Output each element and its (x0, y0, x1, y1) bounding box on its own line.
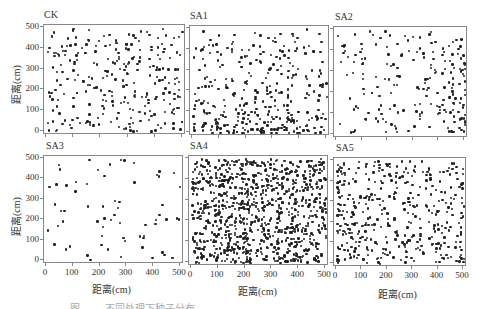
x-tick-mark (386, 266, 387, 269)
data-point (260, 128, 262, 130)
data-point (349, 97, 351, 99)
data-point (381, 213, 383, 215)
data-point (55, 183, 57, 185)
data-point (193, 123, 195, 125)
data-point (79, 122, 81, 124)
data-point (357, 107, 359, 109)
data-point (70, 127, 72, 129)
data-point (129, 126, 131, 128)
data-point (324, 228, 326, 230)
data-point (412, 59, 414, 61)
data-point (257, 229, 259, 231)
data-point (374, 194, 376, 196)
data-point (386, 212, 388, 214)
data-point (352, 72, 354, 74)
data-point (315, 164, 317, 166)
data-point (245, 158, 247, 160)
data-point (408, 201, 410, 203)
data-point (375, 117, 377, 119)
data-point (211, 200, 213, 202)
data-point (386, 46, 388, 48)
data-point (435, 213, 437, 215)
data-point (240, 56, 242, 58)
data-point (365, 203, 367, 205)
data-point (163, 99, 165, 101)
data-point (249, 258, 251, 260)
data-point (226, 124, 228, 126)
data-point (301, 199, 303, 201)
data-point (150, 130, 152, 132)
data-point (373, 229, 375, 231)
data-point (192, 171, 194, 173)
data-point (437, 223, 439, 225)
data-point (211, 132, 213, 134)
data-point (306, 189, 308, 191)
data-point (219, 219, 221, 221)
data-point (72, 29, 74, 31)
data-point (462, 168, 464, 170)
data-point (462, 215, 464, 217)
data-point (428, 221, 430, 223)
data-point (129, 129, 131, 131)
data-point (120, 102, 122, 104)
data-point (367, 254, 369, 256)
data-point (93, 87, 95, 89)
data-point (376, 218, 378, 220)
data-point (441, 72, 443, 74)
data-point (342, 210, 344, 212)
data-point (355, 241, 357, 243)
x-tick-mark (181, 134, 182, 137)
data-point (419, 238, 421, 240)
data-point (372, 34, 374, 36)
data-point (102, 77, 104, 79)
data-point (221, 244, 223, 246)
data-point (412, 205, 414, 207)
data-point (50, 92, 52, 94)
y-tick-mark (186, 110, 189, 111)
data-point (388, 225, 390, 227)
y-tick-mark (186, 89, 189, 90)
y-tick-label: 400 (17, 42, 39, 52)
y-tick-label: 200 (17, 83, 39, 93)
data-point (246, 83, 248, 85)
data-point (267, 247, 269, 249)
data-point (263, 240, 265, 242)
y-tick-mark (186, 131, 189, 132)
data-point (264, 106, 266, 108)
data-point (222, 164, 224, 166)
data-point (296, 243, 298, 245)
x-tick-mark (45, 263, 46, 266)
data-point (60, 210, 62, 212)
data-point (461, 202, 463, 204)
data-point (91, 77, 93, 79)
data-point (53, 31, 55, 33)
data-point (174, 68, 176, 70)
data-point (109, 44, 111, 46)
data-point (249, 253, 251, 255)
data-point (169, 103, 171, 105)
data-point (242, 206, 244, 208)
data-point (224, 223, 226, 225)
data-point (173, 98, 175, 100)
data-point (365, 165, 367, 167)
data-point (344, 174, 346, 176)
data-point (319, 131, 321, 133)
data-point (102, 113, 104, 115)
data-point (239, 214, 241, 216)
data-point (446, 211, 448, 213)
data-point (305, 125, 307, 127)
data-point (339, 123, 341, 125)
data-point (103, 35, 105, 37)
data-point (368, 198, 370, 200)
data-point (216, 225, 218, 227)
data-point (265, 224, 267, 226)
data-point (409, 160, 411, 162)
data-point (259, 34, 261, 36)
data-point (370, 238, 372, 240)
data-point (430, 64, 432, 66)
data-point (385, 131, 387, 133)
data-point (218, 205, 220, 207)
data-point (227, 181, 229, 183)
data-point (224, 234, 226, 236)
data-point (452, 83, 454, 85)
